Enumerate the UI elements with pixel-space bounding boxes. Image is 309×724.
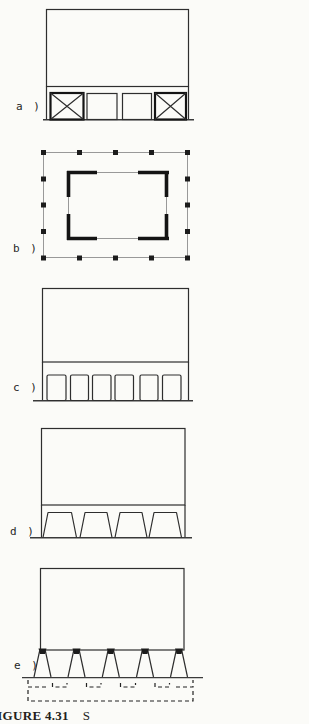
panel-label-b: b ) [13,242,39,255]
plan-outline [44,153,188,258]
perimeter-columns [41,150,190,261]
panel-b-plan: b ) [13,150,190,261]
open-bay [123,94,152,120]
open-bay [87,94,117,120]
building-outline [43,289,189,363]
building-outline [41,569,185,651]
panel-label-e: e ) [14,659,40,672]
core-outline [69,173,167,239]
figure-caption-number: FIGURE 4.31 [0,708,69,723]
panel-label-c: c ) [13,381,39,394]
ground-storey-walls [42,505,186,538]
panel-c-elevation: c ) [13,289,193,401]
building-outline [42,429,186,506]
ground-storey-columns [47,375,181,401]
buried-foundation-dashed-outline [28,680,193,701]
corner-shear-walls [67,171,169,240]
panel-label-a: a ) [16,100,42,113]
figure-caption-text-fragment: S [83,708,90,723]
pedestal-columns [34,649,188,678]
figure-caption: FIGURE 4.31S [0,708,309,724]
x-brace-icon [155,93,186,120]
pedestal-cap-marks [39,649,184,655]
building-outline [47,10,189,87]
braced-bay-right [155,93,186,120]
panel-label-d: d ) [10,525,36,538]
braced-bay-left [51,93,84,120]
panel-e-elevation: e ) [14,569,203,702]
panel-d-elevation: d ) [10,429,192,539]
foundation-mat-dashed-outline [28,690,193,701]
tapered-columns [43,513,182,538]
panel-a-elevation: a ) [16,10,194,120]
x-brace-icon [51,93,84,120]
